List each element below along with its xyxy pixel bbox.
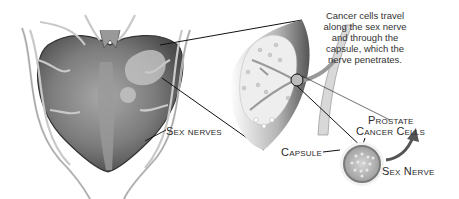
label-cancer-cells: Cancer Cells: [356, 125, 425, 137]
label-sex-nerves: Sex nerves: [166, 125, 222, 137]
prostate-gland: [22, 15, 190, 199]
label-sex-nerve: Sex Nerve: [382, 165, 434, 177]
capsule-circle: [291, 74, 303, 86]
caption-text: Cancer cells travel along the sex nerve …: [315, 10, 415, 65]
magnified-nerve-circle: [340, 142, 384, 186]
capsule-leader: [323, 150, 340, 152]
label-capsule: Capsule: [281, 146, 322, 158]
